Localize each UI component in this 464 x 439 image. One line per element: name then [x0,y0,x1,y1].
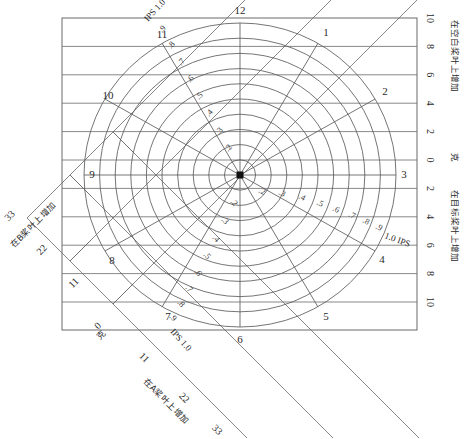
polar-origin-marker [237,172,244,179]
ips-label-upper-left: IPS 1.0 [142,0,168,23]
bottom-tick-22: 22 [177,390,192,405]
right-tick-5: 0 [425,158,436,163]
bottom-axis-tick-labels: 11 22 33 [137,350,225,437]
radial-label-ul-2: .2 [222,142,234,153]
radial-label-ll-6: .6 [193,267,205,278]
left-tick-33: 33 [2,208,17,223]
radial-label-ul-4: .4 [203,106,215,118]
radial-label-lr-7: .7 [347,209,357,221]
clock-label-2: 2 [382,85,388,97]
right-tick-4: 2 [425,129,436,134]
left-axis-title: 在B桨叶上增加 [8,200,57,249]
clock-label-6: 6 [237,333,243,345]
radial-labels-upper-left: .2 .3 .4 .5 .6 .7 .8 .9 IPS 1.0 [142,0,234,153]
clock-label-5: 5 [323,310,329,322]
clock-label-9: 9 [89,168,95,180]
right-axis-bottom-title: 在目标桨叶上增加 [450,190,460,262]
right-axis-top-title: 在空白桨叶上增加 [450,20,460,92]
radial-label-lr-6: .6 [331,203,341,215]
nomogram-chart: 12 1 2 3 4 5 6 7 8 9 10 11 .2 .3 .4 .5 .… [0,0,464,439]
right-tick-6: 2 [425,186,436,191]
right-tick-2: 6 [425,72,436,77]
radial-label-ll-5: .5 [202,250,214,261]
right-tick-0: 10 [425,13,436,23]
radial-label-ll-3: .3 [220,215,232,226]
radial-label-ll-8: .8 [176,298,188,309]
nomogram-svg: 12 1 2 3 4 5 6 7 8 9 10 11 .2 .3 .4 .5 .… [0,0,464,439]
bottom-tick-11: 11 [137,350,152,365]
radial-label-ul-8: .8 [165,39,177,50]
radial-label-ll-4: .4 [211,233,223,245]
radial-label-lr-4: .4 [297,191,308,203]
right-tick-3: 4 [425,101,436,106]
radial-label-lr-2: .2 [257,185,267,197]
radial-label-lr-9: .9 [374,221,384,233]
radial-label-ll-2: .2 [229,197,241,208]
left-tick-22: 22 [34,242,49,257]
clock-label-10: 10 [103,89,115,101]
right-tick-8: 6 [425,243,436,248]
clock-label-3: 3 [401,168,407,180]
oblique-tick-marks [70,132,134,304]
bottom-tick-33: 33 [210,422,225,437]
right-tick-7: 4 [425,214,436,219]
clock-label-8: 8 [109,254,115,266]
right-tick-1: 8 [425,44,436,49]
left-axis-tick-labels: 0 11 22 33 [2,208,103,331]
right-axis-tick-labels: 10 8 6 4 2 0 2 4 6 8 10 [425,13,436,307]
right-tick-10: 10 [425,297,436,307]
clock-labels: 12 1 2 3 4 5 6 7 8 9 10 11 [89,4,407,345]
right-axis-unit: 克 [450,153,460,162]
radial-label-ul-3: .3 [213,125,225,136]
left-tick-11: 11 [66,275,81,290]
radial-label-lr-5: .5 [315,197,325,209]
clock-label-4: 4 [379,253,385,265]
ips-label-lower-left: IPS 1.0 [169,327,195,354]
clock-label-12: 12 [235,4,246,16]
right-tick-9: 8 [425,271,436,276]
ips-label-right: 1.0 IPS [383,230,411,248]
clock-label-1: 1 [323,26,329,38]
